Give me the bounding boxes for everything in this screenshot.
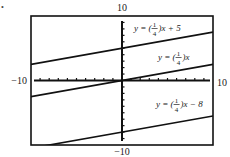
svg-text:4: 4 <box>153 30 157 38</box>
graph: 10 −10 −10 10 y = (14)x + 5y = (14)xy = … <box>0 0 230 157</box>
equation-label-0: y = (14)x + 5 <box>133 21 181 38</box>
y-min-label: −10 <box>114 146 130 157</box>
svg-text:1: 1 <box>175 97 179 105</box>
svg-text:y = (: y = ( <box>155 99 175 109</box>
svg-text:y = (: y = ( <box>133 23 153 33</box>
svg-text:)x: )x <box>182 52 190 62</box>
svg-text:4: 4 <box>177 59 181 67</box>
y-max-label: 10 <box>117 2 127 13</box>
x-max-label: 10 <box>217 77 227 88</box>
svg-text:4: 4 <box>175 106 179 114</box>
svg-text:1: 1 <box>177 50 181 58</box>
svg-text:1: 1 <box>153 21 157 29</box>
svg-text:)x − 8: )x − 8 <box>180 99 204 109</box>
equation-label-1: y = (14)x <box>157 50 190 67</box>
svg-text:y = (: y = ( <box>157 52 177 62</box>
equation-label-2: y = (14)x − 8 <box>155 97 203 114</box>
x-min-label: −10 <box>11 75 27 86</box>
svg-text:)x + 5: )x + 5 <box>158 23 182 33</box>
